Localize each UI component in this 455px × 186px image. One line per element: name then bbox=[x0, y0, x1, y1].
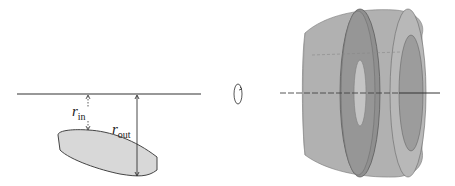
rotation-arrow-icon bbox=[234, 84, 242, 104]
r-out-label: rout bbox=[112, 121, 131, 138]
r-out-main: r bbox=[112, 121, 118, 137]
r-in-sub: in bbox=[78, 111, 86, 122]
r-in-main: r bbox=[72, 103, 78, 119]
region-shape bbox=[58, 130, 157, 176]
r-in-label: rin bbox=[72, 103, 86, 120]
r-out-sub: out bbox=[118, 129, 131, 140]
diagram-canvas bbox=[0, 0, 455, 186]
r-in-arrow bbox=[86, 95, 90, 130]
